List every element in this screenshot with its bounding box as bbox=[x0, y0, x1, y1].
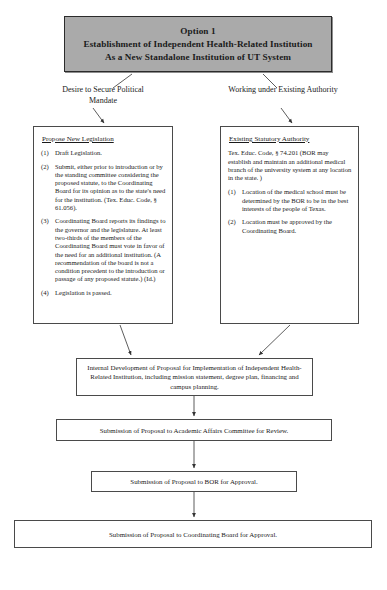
propose-box-list: (1)Draft Legislation. (2)Submit, either … bbox=[40, 149, 166, 297]
bor-submission-text: Submission of Proposal to BOR for Approv… bbox=[130, 478, 257, 485]
list-item: (1)Draft Legislation. bbox=[40, 149, 166, 157]
list-item-number: (4) bbox=[41, 289, 49, 297]
coordinating-board-submission-box: Submission of Proposal to Coordinating B… bbox=[14, 520, 372, 548]
list-item: (3)Coordinating Board reports its findin… bbox=[40, 217, 166, 283]
list-item-number: (1) bbox=[41, 149, 49, 157]
existing-statutory-authority-box: Existing Statutory Authority Tex. Educ. … bbox=[220, 126, 359, 324]
list-item-text: Draft Legislation. bbox=[55, 149, 102, 156]
academic-affairs-text: Submission of Proposal to Academic Affai… bbox=[100, 427, 289, 434]
list-item: (1)Location of the medical school must b… bbox=[227, 188, 352, 213]
list-item-number: (1) bbox=[228, 188, 236, 196]
connector-left-label-to-propose bbox=[93, 108, 104, 123]
bor-submission-box: Submission of Proposal to BOR for Approv… bbox=[91, 471, 297, 492]
coordinating-board-text: Submission of Proposal to Coordinating B… bbox=[109, 531, 277, 538]
list-item-text: Legislation is passed. bbox=[55, 289, 112, 296]
connector-right-label-to-statutory bbox=[281, 108, 292, 123]
flowchart-canvas: Option 1 Establishment of Independent He… bbox=[0, 0, 387, 590]
list-item-text: Location must be approved by the Coordin… bbox=[242, 218, 332, 233]
list-item-text: Location of the medical school must be d… bbox=[242, 188, 348, 212]
internal-development-text: Internal Development of Proposal for Imp… bbox=[82, 363, 307, 391]
propose-box-title: Propose New Legislation bbox=[42, 135, 166, 143]
list-item: (2)Submit, either prior to introduction … bbox=[40, 163, 166, 213]
branch-label-political-mandate: Desire to Secure Political Mandate bbox=[48, 84, 158, 106]
statutory-citation-text: Tex. Educ. Code, § 74.201 (BOR may estab… bbox=[228, 149, 352, 182]
list-item: (2)Location must be approved by the Coor… bbox=[227, 218, 352, 235]
header-title-box: Option 1 Establishment of Independent He… bbox=[64, 16, 332, 72]
list-item-number: (3) bbox=[41, 217, 49, 225]
list-item: (4)Legislation is passed. bbox=[40, 289, 166, 297]
academic-affairs-submission-box: Submission of Proposal to Academic Affai… bbox=[56, 419, 332, 441]
header-title-line-1: Establishment of Independent Health-Rela… bbox=[83, 38, 312, 51]
list-item-text: Submit, either prior to introduction or … bbox=[55, 163, 165, 211]
list-item-text: Coordinating Board reports its findings … bbox=[55, 217, 165, 282]
propose-new-legislation-box: Propose New Legislation (1)Draft Legisla… bbox=[33, 126, 173, 324]
branch-label-existing-authority: Working under Existing Authority bbox=[228, 84, 338, 95]
connector-propose-to-internal bbox=[120, 325, 131, 355]
statutory-box-title: Existing Statutory Authority bbox=[229, 135, 352, 143]
list-item-number: (2) bbox=[41, 163, 49, 171]
header-title-line-2: As a New Standalone Institution of UT Sy… bbox=[105, 51, 291, 64]
header-option-label: Option 1 bbox=[180, 25, 215, 38]
list-item-number: (2) bbox=[228, 218, 236, 226]
internal-development-box: Internal Development of Proposal for Imp… bbox=[76, 358, 313, 396]
connector-statutory-to-internal bbox=[259, 325, 290, 355]
statutory-box-list: (1)Location of the medical school must b… bbox=[227, 188, 352, 234]
